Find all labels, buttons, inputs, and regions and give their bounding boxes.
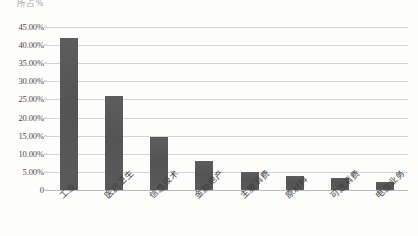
y-axis-tick-label: 15.00% bbox=[0, 131, 44, 141]
gridline bbox=[46, 154, 408, 155]
gridline bbox=[46, 63, 408, 64]
y-axis-tick-label: 10.00% bbox=[0, 149, 44, 159]
gridline bbox=[46, 99, 408, 100]
bar-chart: 所占% 45.00%40.00%35.00%30.00%25.00%20.00%… bbox=[0, 0, 418, 236]
y-axis-tick-label: 5.00% bbox=[0, 167, 44, 177]
y-axis-tick-label: 20.00% bbox=[0, 113, 44, 123]
y-axis-tick-label: 45.00% bbox=[0, 22, 44, 32]
gridline bbox=[46, 118, 408, 119]
y-axis-tick-label: 40.00% bbox=[0, 40, 44, 50]
chart-header-text: 所占% bbox=[17, 0, 44, 8]
y-axis-tick-label: 30.00% bbox=[0, 76, 44, 86]
plot-area bbox=[46, 27, 408, 190]
y-axis-tick-label: 35.00% bbox=[0, 58, 44, 68]
x-axis-labels: 工业医药卫生信息技术金融地产主要消费原材料可选消费电信业务 bbox=[46, 192, 408, 236]
bar bbox=[60, 38, 78, 190]
gridline bbox=[46, 45, 408, 46]
gridline bbox=[46, 136, 408, 137]
gridline bbox=[46, 27, 408, 28]
y-axis-tick-label: 0 bbox=[0, 185, 44, 195]
y-axis: 45.00%40.00%35.00%30.00%25.00%20.00%15.0… bbox=[0, 27, 44, 190]
gridline bbox=[46, 81, 408, 82]
y-axis-tick-label: 25.00% bbox=[0, 94, 44, 104]
